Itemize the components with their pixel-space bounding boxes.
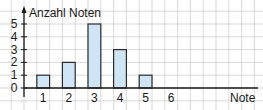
y-tick-label: 0 bbox=[11, 81, 18, 95]
bar-5 bbox=[139, 75, 152, 88]
x-tick-label: 4 bbox=[117, 91, 124, 105]
x-tick-label: 6 bbox=[168, 91, 175, 105]
x-tick-label: 3 bbox=[91, 91, 98, 105]
x-tick-label: 5 bbox=[142, 91, 149, 105]
chart-canvas: 012345123456 Anzahl Noten Note bbox=[0, 0, 263, 110]
bar-1 bbox=[37, 75, 50, 88]
y-tick-label: 1 bbox=[11, 68, 18, 82]
y-tick-label: 4 bbox=[11, 30, 18, 44]
y-axis-arrow-icon bbox=[22, 6, 27, 13]
bar-chart: 012345123456 Anzahl Noten Note bbox=[0, 0, 263, 110]
bar-2 bbox=[62, 62, 75, 88]
x-tick-label: 2 bbox=[65, 91, 72, 105]
x-axis-label: Note bbox=[230, 91, 256, 105]
bar-4 bbox=[114, 50, 127, 88]
y-tick-label: 5 bbox=[11, 17, 18, 31]
y-tick-label: 3 bbox=[11, 43, 18, 57]
x-tick-label: 1 bbox=[40, 91, 47, 105]
y-axis-label: Anzahl Noten bbox=[29, 6, 101, 20]
y-tick-label: 2 bbox=[11, 55, 18, 69]
bars bbox=[37, 24, 152, 88]
bar-3 bbox=[88, 24, 101, 88]
